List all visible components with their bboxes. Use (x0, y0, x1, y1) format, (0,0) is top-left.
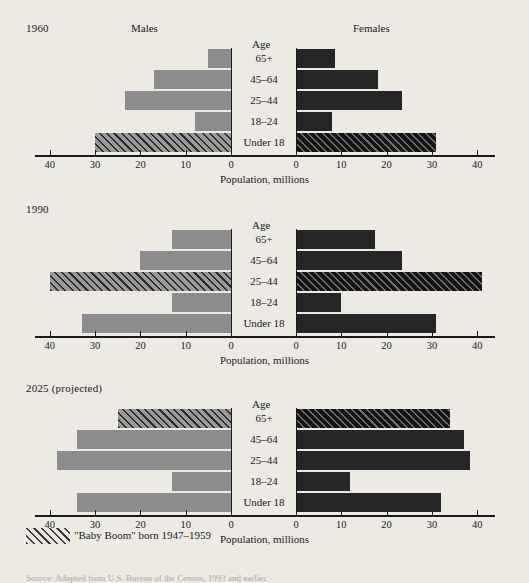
x-axis-tick (231, 150, 232, 155)
bar-males-45-64 (140, 251, 231, 270)
x-axis-tick (387, 150, 388, 155)
bar-males-under-18 (77, 493, 231, 512)
source-note: Source: Adapted from U.S. Bureau of the … (26, 573, 268, 583)
bar-females-45-64 (296, 430, 464, 449)
x-axis-tick-label: 20 (372, 159, 402, 170)
bar-males-65- (118, 409, 231, 428)
age-group-label: 25–44 (232, 450, 296, 471)
bar-males-18-24 (172, 293, 231, 312)
age-row: 18–24 (0, 471, 529, 492)
age-row: Under 18 (0, 492, 529, 513)
zero-axis-right (296, 229, 297, 334)
bar-females-45-64 (296, 251, 402, 270)
x-axis-tick-label: 30 (417, 159, 447, 170)
bar-males-18-24 (172, 472, 231, 491)
x-axis-tick (50, 510, 51, 515)
zero-axis-left (231, 229, 232, 334)
bar-females-18-24 (296, 472, 350, 491)
males-column-header: Males (131, 22, 158, 34)
x-axis-tick (95, 150, 96, 155)
bar-females-45-64 (296, 70, 378, 89)
x-axis-tick (231, 331, 232, 336)
age-group-label: 45–64 (232, 69, 296, 90)
age-group-label: 18–24 (232, 471, 296, 492)
age-row: 18–24 (0, 111, 529, 132)
bar-females-under-18 (296, 493, 441, 512)
age-row: 45–64 (0, 429, 529, 450)
legend-label: "Baby Boom" born 1947–1959 (74, 529, 211, 541)
age-group-label: 25–44 (232, 271, 296, 292)
x-axis-tick (296, 331, 297, 336)
x-axis-tick-label: 30 (80, 159, 110, 170)
x-axis-tick (477, 150, 478, 155)
age-group-label: 18–24 (232, 292, 296, 313)
x-axis-tick-label: 30 (417, 340, 447, 351)
x-axis-tick (387, 510, 388, 515)
x-axis-line (35, 336, 495, 338)
bar-females-65- (296, 409, 450, 428)
x-axis-tick (341, 510, 342, 515)
bar-females-65- (296, 230, 375, 249)
x-axis-tick-label: 10 (326, 159, 356, 170)
bar-males-65- (208, 49, 231, 68)
age-row: 18–24 (0, 292, 529, 313)
x-axis-line (35, 515, 495, 517)
bar-males-25-44 (50, 272, 231, 291)
age-group-label: 65+ (232, 48, 296, 69)
x-axis-tick-label: 0 (216, 519, 246, 530)
age-row: 45–64 (0, 69, 529, 90)
bar-females-under-18 (296, 133, 436, 152)
bar-males-18-24 (195, 112, 231, 131)
x-axis-tick (186, 150, 187, 155)
x-axis-tick (432, 510, 433, 515)
age-row: Under 18 (0, 313, 529, 334)
x-axis-tick-label: 20 (372, 519, 402, 530)
x-axis-tick-label: 40 (462, 340, 492, 351)
zero-axis-left (231, 408, 232, 513)
x-axis-tick-label: 10 (171, 340, 201, 351)
bar-males-25-44 (57, 451, 231, 470)
x-axis-tick-label: 20 (125, 340, 155, 351)
bar-females-25-44 (296, 272, 482, 291)
bar-males-under-18 (82, 314, 231, 333)
zero-axis-left (231, 48, 232, 153)
x-axis-tick (341, 150, 342, 155)
x-axis-tick-label: 20 (372, 340, 402, 351)
x-axis-tick (186, 331, 187, 336)
age-row: 25–44 (0, 450, 529, 471)
x-axis-tick (387, 331, 388, 336)
bar-females-25-44 (296, 91, 402, 110)
age-row: 25–44 (0, 90, 529, 111)
x-axis-tick-label: 30 (80, 340, 110, 351)
x-axis-tick (477, 331, 478, 336)
x-axis-tick-label: 0 (216, 159, 246, 170)
x-axis-tick (186, 510, 187, 515)
age-group-label: Under 18 (232, 492, 296, 513)
x-axis-tick-label: 40 (462, 519, 492, 530)
x-axis-tick-label: 0 (281, 340, 311, 351)
x-axis-tick-label: 0 (281, 519, 311, 530)
x-axis-tick-label: 0 (281, 159, 311, 170)
x-axis-title: Population, millions (0, 173, 529, 185)
x-axis-tick (341, 331, 342, 336)
x-axis-tick (140, 150, 141, 155)
age-group-label: 65+ (232, 408, 296, 429)
age-row: 65+ (0, 408, 529, 429)
age-group-label: 18–24 (232, 111, 296, 132)
age-group-label: Under 18 (232, 313, 296, 334)
panel-year-label: 1990 (26, 203, 49, 215)
bar-males-25-44 (125, 91, 231, 110)
x-axis-tick (432, 150, 433, 155)
x-axis-tick-label: 30 (417, 519, 447, 530)
age-row: Under 18 (0, 132, 529, 153)
x-axis-tick (296, 150, 297, 155)
x-axis-tick (140, 510, 141, 515)
x-axis-line (35, 155, 495, 157)
bar-males-65- (172, 230, 231, 249)
x-axis-tick (231, 510, 232, 515)
x-axis-tick-label: 40 (35, 159, 65, 170)
x-axis-tick (50, 331, 51, 336)
x-axis-tick (477, 510, 478, 515)
x-axis-tick-label: 0 (216, 340, 246, 351)
